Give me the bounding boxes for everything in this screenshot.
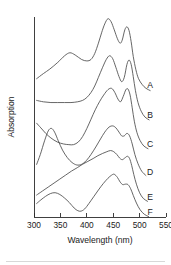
x-axis-tick-label: 450 <box>106 220 120 230</box>
spectra-plot: 300350400450500550 ABCDEF Wavelength (nm… <box>0 0 171 265</box>
spectrum-curve-d <box>37 126 146 176</box>
x-axis-title: Wavelength (nm) <box>67 235 132 245</box>
spectra-curves <box>37 19 151 217</box>
x-axis-tick-label: 350 <box>53 220 67 230</box>
y-axis-title: Absorption <box>6 96 16 137</box>
x-axis-tick-label: 550 <box>159 220 171 230</box>
spectrum-curve-e <box>37 151 148 202</box>
curve-end-labels: ABCDEF <box>147 80 153 217</box>
x-axis-tick-label: 300 <box>27 220 41 230</box>
absorption-spectra-figure: 300350400450500550 ABCDEF Wavelength (nm… <box>0 0 171 265</box>
curve-label-d: D <box>147 167 153 177</box>
curve-label-a: A <box>147 80 153 90</box>
curve-label-b: B <box>147 110 153 120</box>
curve-label-f: F <box>147 207 152 217</box>
x-axis-tick-label: 500 <box>133 220 147 230</box>
curve-label-c: C <box>147 139 153 149</box>
x-axis-tick-labels: 300350400450500550 <box>27 220 171 230</box>
footer-divider <box>6 261 165 262</box>
spectrum-curve-a <box>37 19 151 91</box>
curve-label-e: E <box>147 192 153 202</box>
x-axis-tick-label: 400 <box>80 220 94 230</box>
spectrum-curve-f <box>37 174 149 216</box>
